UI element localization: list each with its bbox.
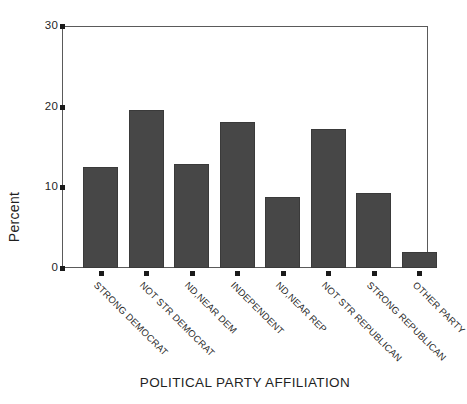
y-tick-mark-20	[60, 105, 65, 110]
bar-independent[interactable]	[220, 122, 255, 268]
y-tick-labels: 0 10 20 30	[24, 0, 58, 404]
x-tick-mark-1	[144, 271, 149, 276]
x-tick-mark-2	[190, 271, 195, 276]
y-tick-label-30: 30	[28, 20, 58, 32]
x-tick-mark-7	[417, 271, 422, 276]
bar-not-str-republican[interactable]	[311, 129, 346, 268]
x-axis-title: POLITICAL PARTY AFFILIATION	[62, 376, 428, 390]
y-tick-mark-0	[60, 266, 65, 271]
y-axis-title: Percent	[7, 174, 21, 260]
bar-strong-democrat[interactable]	[83, 167, 118, 268]
x-tick-label-strong-republican: STRONG REPUBLICAN	[365, 280, 448, 363]
x-tick-mark-6	[372, 271, 377, 276]
bar-nd-near-rep[interactable]	[265, 197, 300, 268]
bars-layer	[62, 26, 428, 268]
y-tick-mark-30	[60, 24, 65, 29]
y-tick-label-10: 10	[28, 181, 58, 193]
x-tick-mark-5	[326, 271, 331, 276]
y-tick-label-20: 20	[28, 101, 58, 113]
x-tick-mark-3	[235, 271, 240, 276]
x-tick-label-not-str-democrat: NOT STR DEMOCRAT	[138, 280, 216, 358]
bar-nd-near-dem[interactable]	[174, 164, 209, 268]
x-tick-mark-0	[99, 271, 104, 276]
x-tick-label-not-str-republican: NOT STR REPUBLICAN	[320, 280, 404, 364]
y-tick-mark-10	[60, 185, 65, 190]
y-tick-label-0: 0	[28, 262, 58, 274]
bar-other-party[interactable]	[402, 252, 437, 268]
bar-strong-republican[interactable]	[356, 193, 391, 268]
bar-not-str-democrat[interactable]	[129, 110, 164, 268]
x-tick-mark-4	[281, 271, 286, 276]
